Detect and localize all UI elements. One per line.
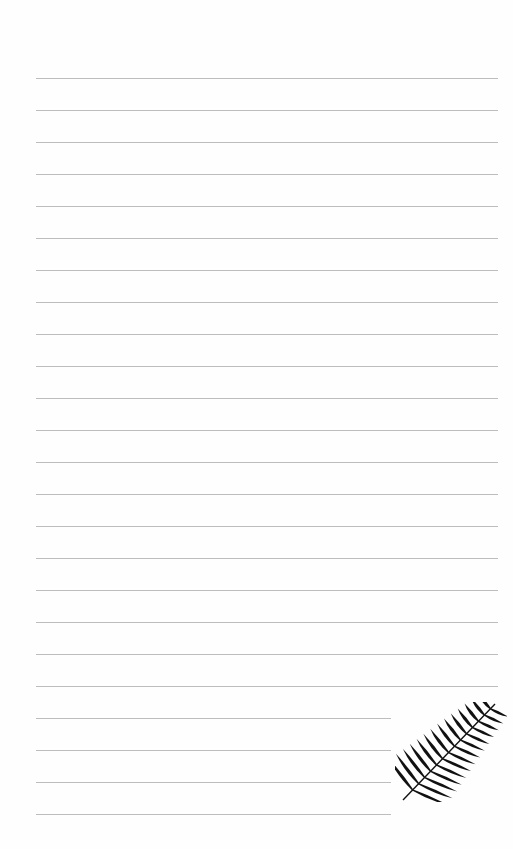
writing-line xyxy=(36,398,498,399)
writing-line-short xyxy=(36,814,391,815)
writing-line xyxy=(36,494,498,495)
writing-line-short xyxy=(36,718,391,719)
writing-line-short xyxy=(36,782,391,783)
writing-line xyxy=(36,366,498,367)
writing-line xyxy=(36,654,498,655)
writing-line xyxy=(36,430,498,431)
writing-line xyxy=(36,78,498,79)
writing-line-short xyxy=(36,750,391,751)
writing-line xyxy=(36,206,498,207)
writing-line xyxy=(36,302,498,303)
writing-line xyxy=(36,558,498,559)
notepaper-page xyxy=(0,0,513,849)
writing-line xyxy=(36,686,498,687)
writing-line xyxy=(36,110,498,111)
writing-line xyxy=(36,462,498,463)
writing-line xyxy=(36,270,498,271)
writing-line xyxy=(36,142,498,143)
writing-line xyxy=(36,590,498,591)
writing-line xyxy=(36,526,498,527)
writing-line xyxy=(36,238,498,239)
palm-leaf-icon xyxy=(395,702,507,802)
writing-line xyxy=(36,334,498,335)
writing-line xyxy=(36,622,498,623)
writing-line xyxy=(36,174,498,175)
